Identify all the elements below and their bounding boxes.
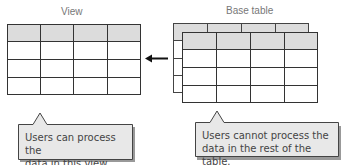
callout-base-table-line2: data in the rest of the table. — [202, 142, 333, 165]
callout-base-table-text: Users cannot process the data in the res… — [196, 126, 339, 165]
callout-view-line2: data in this view. — [25, 157, 127, 165]
view-table — [8, 25, 141, 95]
callout-base-table-line1: Users cannot process the — [202, 129, 333, 142]
base-table-front-layer — [183, 33, 318, 103]
left-arrow-icon — [145, 55, 168, 63]
callout-view-line1: Users can process the — [25, 131, 127, 157]
callout-view-text: Users can process the data in this view. — [19, 128, 133, 165]
